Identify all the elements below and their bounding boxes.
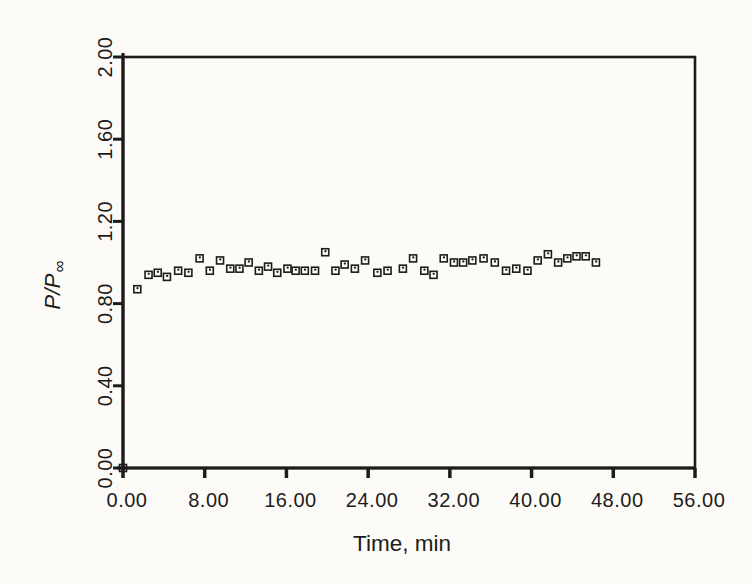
data-point-marker (154, 269, 161, 276)
y-tick-label: 0.40 (94, 365, 116, 406)
data-point-marker (265, 263, 272, 270)
data-point-marker (284, 265, 291, 272)
x-tick-label: 24.00 (346, 489, 399, 511)
data-point-marker (450, 259, 457, 266)
data-point-marker (332, 267, 339, 274)
x-tick-label: 48.00 (591, 489, 644, 511)
data-point-marker (255, 267, 262, 274)
data-point-marker (440, 255, 447, 262)
data-point-marker (582, 253, 589, 260)
scatter-plot-svg: 0.000.400.801.201.602.000.008.0016.0024.… (0, 0, 752, 583)
data-point-marker (399, 265, 406, 272)
data-point-marker (145, 271, 152, 278)
x-tick-label: 8.00 (188, 489, 229, 511)
data-point-marker (491, 259, 498, 266)
x-tick-label: 32.00 (428, 489, 481, 511)
data-point-marker (163, 273, 170, 280)
data-point-marker (196, 255, 203, 262)
data-point-marker (322, 249, 329, 256)
x-tick-label: 16.00 (264, 489, 317, 511)
figure: 0.000.400.801.201.602.000.008.0016.0024.… (0, 0, 752, 583)
data-point-marker (292, 267, 299, 274)
data-point-marker (206, 267, 213, 274)
data-point-marker (301, 267, 308, 274)
x-tick-label: 56.00 (673, 489, 726, 511)
data-point-marker (544, 251, 551, 258)
data-point-marker (362, 257, 369, 264)
data-point-marker (312, 267, 319, 274)
data-point-marker (564, 255, 571, 262)
data-point-marker (245, 259, 252, 266)
data-point-marker (274, 269, 281, 276)
y-axis-title: P/P∞ (40, 260, 69, 309)
data-point-marker (134, 286, 141, 293)
y-tick-label: 1.20 (94, 201, 116, 242)
data-point-marker (524, 267, 531, 274)
data-point-marker (374, 269, 381, 276)
x-tick-label: 0.00 (107, 489, 148, 511)
data-point-marker (236, 265, 243, 272)
data-point-marker (217, 257, 224, 264)
data-point-marker (460, 259, 467, 266)
data-point-marker (513, 265, 520, 272)
data-point-marker (227, 265, 234, 272)
data-points (120, 249, 600, 472)
y-tick-label: 0.80 (94, 283, 116, 324)
data-point-marker (384, 267, 391, 274)
data-point-marker (480, 255, 487, 262)
y-tick-label: 2.00 (94, 37, 116, 78)
data-point-marker (469, 257, 476, 264)
data-point-marker (351, 265, 358, 272)
data-point-marker (175, 267, 182, 274)
data-point-marker (534, 257, 541, 264)
data-point-marker (592, 259, 599, 266)
data-point-marker (185, 269, 192, 276)
data-point-marker (430, 271, 437, 278)
data-point-marker (421, 267, 428, 274)
y-tick-label: 0.00 (94, 448, 116, 489)
data-point-marker (555, 259, 562, 266)
x-axis-title: Time, min (353, 531, 451, 556)
data-point-marker (410, 255, 417, 262)
y-tick-label: 1.60 (94, 119, 116, 160)
data-point-marker (341, 261, 348, 268)
data-point-marker (503, 267, 510, 274)
x-tick-label: 40.00 (509, 489, 562, 511)
data-point-marker (573, 253, 580, 260)
